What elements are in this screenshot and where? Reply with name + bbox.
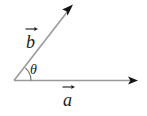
vector-b-shaft bbox=[14, 12, 68, 81]
vector-a-label: a bbox=[63, 91, 72, 109]
vector-b-letter: b bbox=[26, 32, 35, 52]
vector-b-arrowhead-icon bbox=[62, 5, 73, 16]
right-arrow-overbar-icon bbox=[25, 26, 38, 32]
angle-theta-label: θ bbox=[30, 63, 37, 77]
vector-a-letter: a bbox=[63, 90, 72, 110]
vector-diagram-figure: b a θ bbox=[0, 0, 147, 116]
right-arrow-overbar-icon bbox=[62, 84, 75, 90]
vector-diagram-canvas bbox=[0, 0, 147, 116]
vector-b-label: b bbox=[26, 33, 35, 51]
